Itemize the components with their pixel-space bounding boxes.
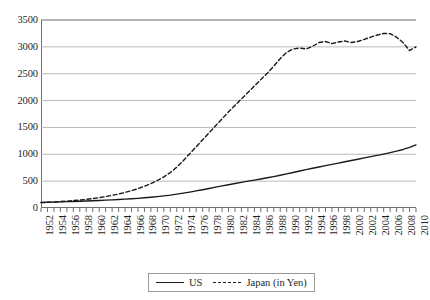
x-axis-tick-label: 1970 [161, 215, 171, 236]
x-axis-tick-label: 1966 [136, 215, 146, 236]
x-axis-tick-label: 1960 [97, 215, 107, 236]
x-axis-tick-label: 1974 [187, 215, 197, 236]
x-axis-tick-label: 1972 [174, 215, 184, 236]
x-axis-tick-label: 1994 [317, 215, 327, 236]
y-axis-tick-label: 2500 [0, 69, 38, 79]
x-axis-tick-label: 1968 [148, 215, 158, 236]
y-axis-tick-label: 1500 [0, 122, 38, 132]
x-axis-tick-label: 2010 [420, 215, 430, 236]
y-axis-tick-label: 500 [0, 176, 38, 186]
x-axis-tick-label: 2002 [368, 215, 378, 236]
x-axis-tick-label: 1984 [252, 215, 262, 236]
x-axis-tick-label: 1962 [110, 215, 120, 236]
x-axis-tick-label: 1954 [58, 215, 68, 236]
plot-area [41, 20, 416, 208]
legend-swatch-solid-line-icon [156, 282, 184, 284]
y-axis-tick-labels: 0500100015002000250030003500 [0, 0, 38, 300]
y-axis-tick-label: 1000 [0, 149, 38, 159]
series-line [41, 145, 416, 202]
y-axis-tick-label: 0 [0, 203, 38, 213]
x-axis-tick-label: 2006 [394, 215, 404, 236]
x-axis-tick-label: 1976 [200, 215, 210, 236]
x-axis-tick-label: 1986 [265, 215, 275, 236]
chart-legend: USJapan (in Yen) [148, 273, 315, 292]
legend-swatch-dashed-line-icon [213, 282, 241, 284]
x-axis-tick-label: 2004 [381, 215, 391, 236]
y-axis-tick-label: 3500 [0, 15, 38, 25]
gridlines [41, 20, 416, 181]
x-axis-tick-label: 1980 [226, 215, 236, 236]
legend-label: US [189, 277, 202, 288]
x-axis-tick-label: 1964 [123, 215, 133, 236]
y-axis-tick-label: 3000 [0, 42, 38, 52]
legend-label: Japan (in Yen) [246, 277, 306, 288]
x-axis-tick-label: 1956 [71, 215, 81, 236]
x-axis-tick-label: 1982 [239, 215, 249, 236]
x-axis-tick-label: 1998 [342, 215, 352, 236]
data-series [41, 33, 416, 202]
x-axis-tick-label: 2000 [355, 215, 365, 236]
x-axis-tick-label: 1952 [45, 215, 55, 236]
x-axis-tick-label: 1996 [329, 215, 339, 236]
x-axis-tick-label: 1978 [213, 215, 223, 236]
x-axis-tick-label: 2008 [407, 215, 417, 236]
series-line [41, 33, 416, 202]
legend-entry: Japan (in Yen) [213, 277, 306, 288]
x-axis-tick-label: 1988 [278, 215, 288, 236]
x-axis-tick-label: 1958 [84, 215, 94, 236]
x-axis-tick-label: 1990 [291, 215, 301, 236]
x-axis-tick-label: 1992 [304, 215, 314, 236]
y-axis-tick-label: 2000 [0, 96, 38, 106]
x-axis-tick-labels: 1952195419561958196019621964196619681970… [41, 208, 416, 268]
legend-entry: US [156, 277, 202, 288]
